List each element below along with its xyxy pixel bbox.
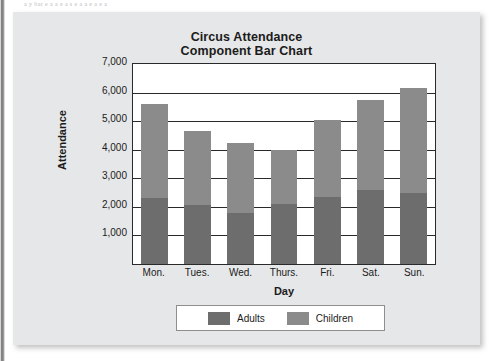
x-axis-tick-label: Sat. (349, 267, 392, 278)
stacked-bar[interactable] (314, 120, 341, 264)
y-axis-tick-label: 5,000 (81, 113, 127, 124)
bar-segment-adults[interactable] (314, 197, 341, 264)
bar-segment-adults[interactable] (357, 190, 384, 264)
chart-title-line1: Circus Attendance (13, 30, 480, 44)
bar-segment-adults[interactable] (400, 193, 427, 264)
bar-segment-children[interactable] (141, 104, 168, 198)
legend-item[interactable]: Adults (208, 312, 265, 325)
stacked-bar[interactable] (400, 88, 427, 264)
bar-slot (392, 64, 435, 264)
legend-swatch (208, 312, 230, 325)
page-top-text-fragment: a y bar e a a e a s e a a e a e a (24, 1, 199, 8)
y-axis-tick-label: 3,000 (81, 170, 127, 181)
figure-panel: Circus Attendance Component Bar Chart At… (13, 12, 480, 345)
bar-slot (349, 64, 392, 264)
bar-slot (176, 64, 219, 264)
chart-legend: AdultsChildren (176, 305, 385, 331)
chart-title: Circus Attendance Component Bar Chart (13, 30, 480, 58)
stacked-bar[interactable] (184, 131, 211, 264)
x-axis-tick-label: Sun. (393, 267, 436, 278)
bar-segment-children[interactable] (271, 150, 298, 204)
bar-segment-adults[interactable] (271, 204, 298, 264)
x-axis-tick-label: Mon. (132, 267, 175, 278)
y-axis-ticks: 7,0006,0005,0004,0003,0002,0001,000 (75, 63, 127, 263)
bar-slot (306, 64, 349, 264)
y-axis-tick-label: 4,000 (81, 142, 127, 153)
bar-slot (219, 64, 262, 264)
legend-label: Children (316, 313, 353, 324)
stacked-bar[interactable] (271, 150, 298, 264)
y-axis-tick-label: 2,000 (81, 199, 127, 210)
y-axis-tick-label: 7,000 (81, 56, 127, 67)
bar-segment-adults[interactable] (141, 198, 168, 264)
bar-slot (262, 64, 305, 264)
legend-swatch (287, 312, 309, 325)
legend-item[interactable]: Children (287, 312, 353, 325)
page-edge-artifact (0, 0, 5, 361)
bar-segment-children[interactable] (314, 120, 341, 197)
bar-slot (133, 64, 176, 264)
y-axis-tick-label: 1,000 (81, 227, 127, 238)
bar-segment-children[interactable] (400, 88, 427, 192)
bars-layer (133, 64, 435, 264)
bar-segment-adults[interactable] (227, 213, 254, 264)
legend-label: Adults (237, 313, 265, 324)
bar-segment-children[interactable] (227, 143, 254, 213)
x-axis-tick-label: Tues. (175, 267, 218, 278)
plot-area (132, 63, 436, 265)
y-axis-title: Attendance (56, 85, 68, 195)
bar-segment-children[interactable] (184, 131, 211, 205)
x-axis-tick-labels: Mon.Tues.Wed.Thurs.Fri.Sat.Sun. (132, 267, 436, 278)
bar-segment-adults[interactable] (184, 205, 211, 264)
stacked-bar[interactable] (357, 100, 384, 264)
x-axis-title: Day (132, 285, 436, 297)
stacked-bar[interactable] (141, 104, 168, 264)
stacked-bar[interactable] (227, 143, 254, 264)
x-axis-tick-label: Thurs. (262, 267, 305, 278)
x-axis-tick-label: Fri. (306, 267, 349, 278)
bar-segment-children[interactable] (357, 100, 384, 190)
x-axis-tick-label: Wed. (219, 267, 262, 278)
y-axis-tick-label: 6,000 (81, 85, 127, 96)
